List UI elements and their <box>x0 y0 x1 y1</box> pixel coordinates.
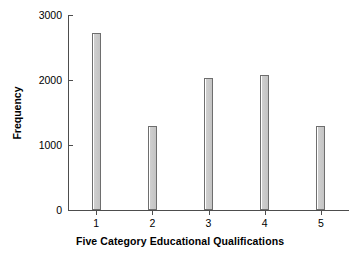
x-tick-label: 4 <box>250 218 280 229</box>
x-axis-title: Five Category Educational Qualifications <box>0 235 360 247</box>
x-tick-label: 2 <box>137 218 167 229</box>
y-tick-mark <box>68 145 73 146</box>
x-tick-mark <box>265 210 266 215</box>
x-tick-mark <box>209 210 210 215</box>
y-tick-label: 3000 <box>2 10 62 21</box>
bar <box>204 78 213 210</box>
y-axis-title: Frequency <box>8 18 26 208</box>
x-tick-label: 3 <box>194 218 224 229</box>
y-tick-mark <box>68 80 73 81</box>
x-tick-mark <box>96 210 97 215</box>
bar <box>148 126 157 211</box>
x-tick-label: 1 <box>81 218 111 229</box>
y-tick-label: 2000 <box>2 75 62 86</box>
x-tick-label: 5 <box>306 218 336 229</box>
x-tick-mark <box>321 210 322 215</box>
bar <box>92 33 101 210</box>
x-tick-mark <box>152 210 153 215</box>
y-axis-title-label: Frequency <box>11 86 23 139</box>
y-tick-label: 0 <box>2 205 62 216</box>
bar <box>316 126 325 210</box>
bar <box>260 75 269 210</box>
bar-chart-figure: Frequency 0100020003000 12345 Five Categ… <box>0 0 360 265</box>
y-tick-mark <box>68 210 73 211</box>
y-tick-mark <box>68 15 73 16</box>
y-axis-line <box>68 15 69 211</box>
y-tick-label: 1000 <box>2 140 62 151</box>
